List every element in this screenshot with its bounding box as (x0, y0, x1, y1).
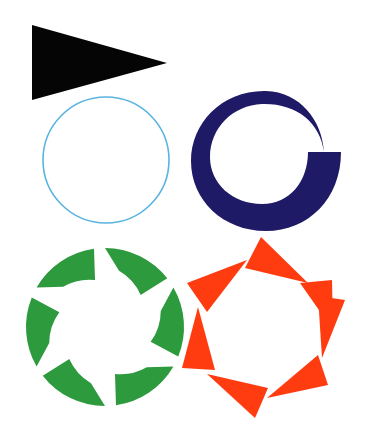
shapes-canvas (0, 0, 365, 444)
